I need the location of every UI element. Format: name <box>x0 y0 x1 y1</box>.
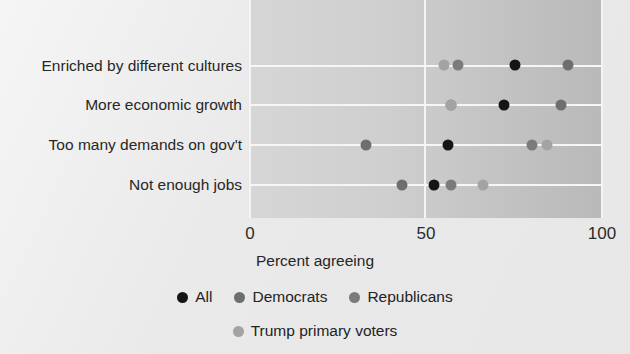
x-tick-100: 100 <box>588 224 616 244</box>
data-point-all-enriched-by-different-cultures[interactable] <box>509 60 520 71</box>
legend-swatch-all-icon <box>177 292 188 303</box>
data-point-democrats-enriched-by-different-cultures[interactable] <box>562 60 573 71</box>
data-point-republicans-enriched-by-different-cultures[interactable] <box>453 60 464 71</box>
data-point-trump-primary-voters-more-economic-growth[interactable] <box>446 100 457 111</box>
dot-plot-chart: Enriched by different cultures More econ… <box>0 0 630 354</box>
legend-label-republicans: Republicans <box>367 288 452 306</box>
data-point-all-too-many-demands-on-gov-t[interactable] <box>442 140 453 151</box>
data-point-democrats-more-economic-growth[interactable] <box>555 100 566 111</box>
legend-row-primary: All Democrats Republicans <box>0 288 630 306</box>
data-point-republicans-not-enough-jobs[interactable] <box>446 180 457 191</box>
data-point-all-more-economic-growth[interactable] <box>499 100 510 111</box>
category-label-more-economic-growth: More economic growth <box>0 96 242 114</box>
legend-item-democrats[interactable]: Democrats <box>234 288 327 306</box>
legend-item-all[interactable]: All <box>177 288 212 306</box>
category-label-text: Too many demands on gov't <box>49 136 242 153</box>
category-label-enriched-by-different-cultures: Enriched by different cultures <box>0 57 242 75</box>
data-point-trump-primary-voters-enriched-by-different-cultures[interactable] <box>439 60 450 71</box>
data-point-republicans-too-many-demands-on-gov-t[interactable] <box>527 140 538 151</box>
legend-label-democrats: Democrats <box>252 288 327 306</box>
data-point-all-not-enough-jobs[interactable] <box>428 180 439 191</box>
legend-item-trump-primary-voters[interactable]: Trump primary voters <box>233 322 398 340</box>
plot-area <box>250 0 603 218</box>
legend-swatch-trump-primary-voters-icon <box>233 326 244 337</box>
x-axis-title: Percent agreeing <box>0 252 630 270</box>
row-line-0 <box>250 65 603 67</box>
row-line-3 <box>250 184 603 186</box>
legend-row-secondary: Trump primary voters <box>0 322 630 340</box>
x-tick-0: 0 <box>245 224 254 244</box>
data-point-democrats-not-enough-jobs[interactable] <box>396 180 407 191</box>
x-tick-50: 50 <box>417 224 436 244</box>
category-label-too-many-demands-on-govt: Too many demands on gov't <box>0 136 242 154</box>
legend-item-republicans[interactable]: Republicans <box>349 288 452 306</box>
data-point-democrats-too-many-demands-on-gov-t[interactable] <box>361 140 372 151</box>
category-label-text: Enriched by different cultures <box>42 57 242 74</box>
category-label-text: More economic growth <box>85 96 242 113</box>
legend-swatch-republicans-icon <box>349 292 360 303</box>
data-point-trump-primary-voters-too-many-demands-on-gov-t[interactable] <box>541 140 552 151</box>
category-label-text: Not enough jobs <box>129 176 242 193</box>
category-label-not-enough-jobs: Not enough jobs <box>0 176 242 194</box>
data-point-trump-primary-voters-not-enough-jobs[interactable] <box>477 180 488 191</box>
legend-label-all: All <box>195 288 212 306</box>
legend-label-trump-primary-voters: Trump primary voters <box>251 322 398 340</box>
row-line-1 <box>250 104 603 106</box>
legend-swatch-democrats-icon <box>234 292 245 303</box>
